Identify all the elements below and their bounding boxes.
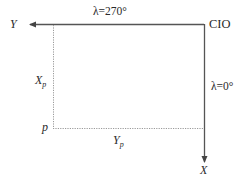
yp-label-sub: p [120,140,124,149]
x-axis-label: X [200,164,207,176]
yp-label: Yp [113,134,124,149]
yp-label-main: Y [113,133,120,147]
xp-label: Xp [35,74,46,89]
lambda-0-label: λ=0° [211,81,233,93]
coordinate-diagram [0,0,241,182]
cio-origin-label: CIO [209,18,231,31]
point-p-label: p [42,121,48,133]
lambda-270-label: λ=270° [93,6,127,18]
xp-label-sub: p [42,80,46,89]
y-axis-label: Y [10,18,17,30]
